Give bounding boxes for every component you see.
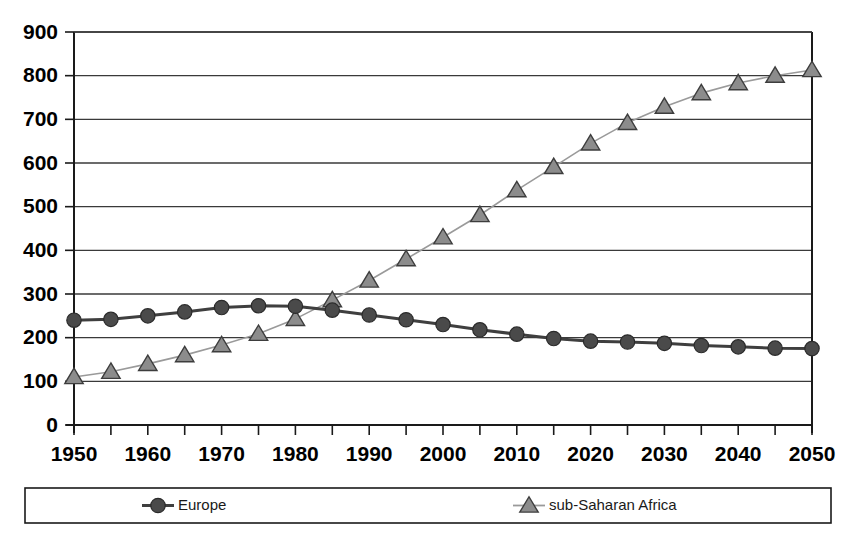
data-point-europe-1970 — [214, 300, 228, 314]
data-point-sub-saharan-africa-2050 — [803, 61, 821, 76]
data-point-sub-saharan-africa-2030 — [655, 98, 673, 113]
data-point-sub-saharan-africa-2015 — [545, 158, 563, 173]
x-axis-ticks — [74, 425, 812, 435]
y-tick-label-100: 100 — [23, 369, 58, 392]
data-point-europe-1975 — [251, 299, 265, 313]
y-tick-label-400: 400 — [23, 238, 58, 261]
x-tick-label-1990: 1990 — [346, 442, 393, 465]
x-tick-label-1980: 1980 — [272, 442, 319, 465]
x-tick-label-1970: 1970 — [198, 442, 245, 465]
data-point-europe-2020 — [583, 334, 597, 348]
series-europe — [67, 299, 819, 356]
legend-label-sub-saharan-africa: sub-Saharan Africa — [549, 496, 677, 513]
y-tick-label-500: 500 — [23, 194, 58, 217]
y-tick-label-900: 900 — [23, 20, 58, 43]
y-tick-label-600: 600 — [23, 151, 58, 174]
data-point-sub-saharan-africa-1990 — [360, 272, 378, 287]
x-tick-label-1960: 1960 — [124, 442, 171, 465]
data-point-europe-1995 — [399, 313, 413, 327]
chart-canvas: 0100200300400500600700800900 19501960197… — [0, 0, 854, 543]
data-point-sub-saharan-africa-2020 — [581, 135, 599, 150]
population-line-chart: 0100200300400500600700800900 19501960197… — [0, 0, 854, 543]
data-point-europe-1965 — [178, 305, 192, 319]
y-tick-label-200: 200 — [23, 325, 58, 348]
y-tick-label-800: 800 — [23, 63, 58, 86]
data-point-europe-1955 — [104, 312, 118, 326]
data-point-sub-saharan-africa-1970 — [212, 336, 230, 351]
legend-marker-europe — [151, 498, 165, 512]
data-point-europe-2030 — [657, 336, 671, 350]
chart-legend: Europesub-Saharan Africa — [25, 488, 831, 523]
data-point-europe-2005 — [473, 323, 487, 337]
y-tick-label-300: 300 — [23, 282, 58, 305]
data-point-sub-saharan-africa-2000 — [434, 228, 452, 243]
x-tick-label-2000: 2000 — [420, 442, 467, 465]
data-point-europe-2045 — [768, 341, 782, 355]
data-point-europe-2025 — [620, 335, 634, 349]
data-point-europe-2015 — [547, 331, 561, 345]
x-tick-label-2030: 2030 — [641, 442, 688, 465]
x-tick-label-2050: 2050 — [789, 442, 836, 465]
data-point-europe-2050 — [805, 341, 819, 355]
data-point-europe-2040 — [731, 340, 745, 354]
data-point-europe-2035 — [694, 338, 708, 352]
data-point-europe-1990 — [362, 308, 376, 322]
legend-label-europe: Europe — [178, 496, 226, 513]
x-tick-label-2010: 2010 — [493, 442, 540, 465]
x-tick-label-2020: 2020 — [567, 442, 614, 465]
data-point-sub-saharan-africa-2005 — [471, 206, 489, 221]
data-point-sub-saharan-africa-1995 — [397, 250, 415, 265]
data-point-europe-2010 — [510, 327, 524, 341]
data-point-europe-1960 — [141, 309, 155, 323]
y-axis-tick-labels: 0100200300400500600700800900 — [23, 20, 74, 436]
data-point-europe-2000 — [436, 317, 450, 331]
data-point-europe-1980 — [288, 299, 302, 313]
data-point-europe-1950 — [67, 313, 81, 327]
y-tick-label-0: 0 — [46, 413, 58, 436]
data-point-sub-saharan-africa-2025 — [618, 114, 636, 129]
data-point-sub-saharan-africa-2010 — [508, 181, 526, 196]
series-sub-saharan-africa — [65, 61, 821, 383]
x-tick-label-1950: 1950 — [51, 442, 98, 465]
legend-item-europe[interactable]: Europe — [142, 496, 226, 513]
x-tick-label-2040: 2040 — [715, 442, 762, 465]
data-point-europe-1985 — [325, 303, 339, 317]
data-point-sub-saharan-africa-1975 — [249, 325, 267, 340]
x-axis-tick-labels: 1950196019701980199020002010202020302040… — [51, 442, 836, 465]
y-tick-label-700: 700 — [23, 107, 58, 130]
